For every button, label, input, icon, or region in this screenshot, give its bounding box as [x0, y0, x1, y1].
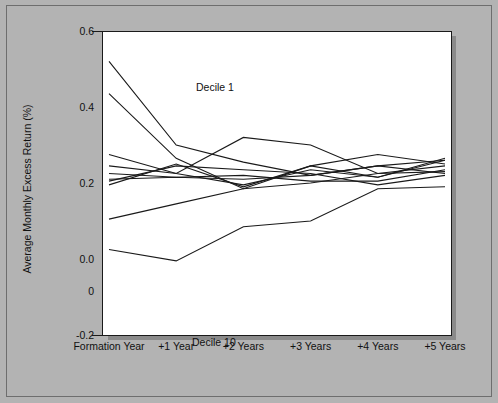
annotation-decile-1: Decile 1 [196, 82, 234, 93]
plot-right-axis [451, 31, 452, 336]
series-line [109, 187, 445, 261]
y-tick-label: 0 [50, 286, 94, 297]
chart-lines-svg [103, 31, 451, 335]
y-tick-label: 0.6 [50, 26, 94, 37]
x-tick-label: +1 Year [158, 341, 194, 352]
x-axis-tick-labels: Formation Year+1 Year+2 Years+3 Years+4 … [103, 341, 451, 361]
y-tick-label: 0.2 [50, 178, 94, 189]
figure-container: Decile 1 Decile 10 0.60.40.20.00-0.2 For… [0, 0, 498, 403]
y-axis-title: Average Monthly Excess Return (%) [21, 94, 33, 284]
x-axis-line [92, 335, 452, 336]
y-tick-label: 0.0 [50, 254, 94, 265]
series-line [109, 61, 445, 175]
y-axis-line [102, 31, 103, 336]
x-tick-label: +2 Years [223, 341, 264, 352]
x-tick-label: +5 Years [424, 341, 465, 352]
x-tick-label: +3 Years [290, 341, 331, 352]
y-tick-label: 0.4 [50, 102, 94, 113]
plot-top-axis [92, 31, 452, 32]
plot-area: Decile 1 Decile 10 [103, 31, 451, 335]
x-tick-label: Formation Year [73, 341, 144, 352]
x-tick-label: +4 Years [357, 341, 398, 352]
y-tick-label: -0.2 [50, 330, 94, 341]
